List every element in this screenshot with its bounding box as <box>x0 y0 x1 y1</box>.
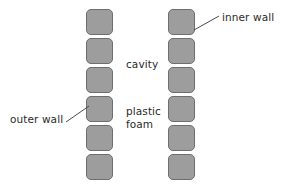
wall-block <box>168 67 195 93</box>
label-plastic-foam: plastic foam <box>126 105 161 130</box>
cavity-wall-diagram: inner wall outer wall cavity plastic foa… <box>0 0 282 193</box>
wall-block <box>168 38 195 64</box>
inner-wall-column <box>168 9 195 180</box>
wall-block <box>168 125 195 151</box>
wall-block <box>86 9 113 35</box>
wall-block <box>86 154 113 180</box>
wall-block <box>168 154 195 180</box>
inner-wall-leader-line <box>194 16 219 30</box>
wall-block <box>86 125 113 151</box>
label-cavity: cavity <box>126 58 158 71</box>
label-inner-wall: inner wall <box>222 11 274 24</box>
wall-block <box>168 96 195 122</box>
label-outer-wall: outer wall <box>10 113 63 126</box>
leader-lines-layer <box>0 0 282 193</box>
wall-block <box>86 96 113 122</box>
wall-block <box>168 9 195 35</box>
outer-wall-column <box>86 9 113 180</box>
wall-block <box>86 67 113 93</box>
wall-block <box>86 38 113 64</box>
